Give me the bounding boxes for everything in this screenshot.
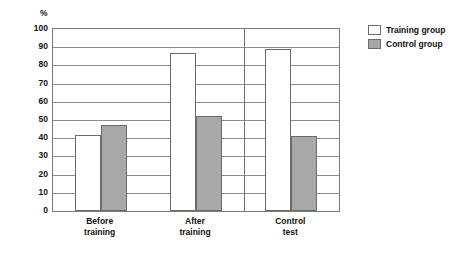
x-label-before-training: Beforetraining xyxy=(84,216,115,238)
plot-area xyxy=(52,28,340,212)
bar-training-before-training xyxy=(75,135,101,211)
x-axis-category-labels: BeforetrainingAftertrainingControltest xyxy=(52,216,340,250)
bar-control-control-test xyxy=(291,136,317,211)
legend-item-control[interactable]: Control group xyxy=(368,38,450,49)
bar-training-after-training xyxy=(170,53,196,211)
gridline-80 xyxy=(53,65,339,66)
legend-swatch-training-icon xyxy=(368,25,381,35)
y-tick-label-100: 100 xyxy=(2,24,48,33)
bar-control-before-training xyxy=(101,125,127,211)
x-label-line: test xyxy=(275,227,305,238)
gridline-60 xyxy=(53,102,339,103)
y-tick-label-50: 50 xyxy=(2,115,48,124)
y-tick-label-90: 90 xyxy=(2,42,48,51)
y-tick-label-40: 40 xyxy=(2,133,48,142)
chart-legend: Training groupControl group xyxy=(368,24,450,52)
x-label-control-test: Controltest xyxy=(275,216,305,238)
x-label-after-training: Aftertraining xyxy=(179,216,210,238)
legend-label: Control group xyxy=(386,39,443,49)
y-tick-label-80: 80 xyxy=(2,60,48,69)
y-axis-tick-labels: 1009080706050403020100 xyxy=(0,28,48,212)
y-tick-label-10: 10 xyxy=(2,188,48,197)
x-label-line: training xyxy=(84,227,115,238)
y-tick-label-20: 20 xyxy=(2,169,48,178)
gridline-90 xyxy=(53,47,339,48)
legend-item-training[interactable]: Training group xyxy=(368,24,450,35)
x-label-line: Before xyxy=(84,216,115,227)
x-label-line: Control xyxy=(275,216,305,227)
x-label-line: training xyxy=(179,227,210,238)
legend-label: Training group xyxy=(386,25,446,35)
bar-training-control-test xyxy=(265,49,291,211)
legend-swatch-control-icon xyxy=(368,39,381,49)
y-tick-label-0: 0 xyxy=(2,206,48,215)
group-divider-line xyxy=(244,29,245,211)
y-tick-label-60: 60 xyxy=(2,97,48,106)
gridline-70 xyxy=(53,84,339,85)
x-label-line: After xyxy=(179,216,210,227)
bar-chart-figure: % 1009080706050403020100 BeforetrainingA… xyxy=(0,0,450,256)
y-axis-unit-label: % xyxy=(40,8,48,18)
bar-control-after-training xyxy=(196,116,222,211)
y-tick-label-70: 70 xyxy=(2,78,48,87)
y-tick-label-30: 30 xyxy=(2,151,48,160)
